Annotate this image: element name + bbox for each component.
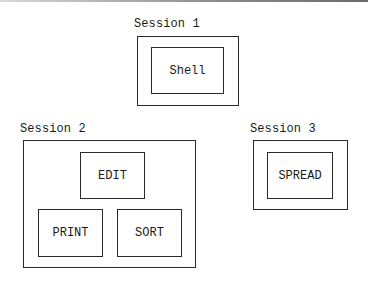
program-label-print: PRINT (52, 226, 88, 240)
program-label-edit: EDIT (98, 169, 127, 183)
session-2-label: Session 2 (20, 122, 86, 136)
session-1-label: Session 1 (134, 17, 200, 31)
program-label-sort: SORT (135, 226, 164, 240)
program-box-edit: EDIT (80, 152, 145, 199)
program-box-spread: SPREAD (267, 152, 333, 199)
top-border-line (0, 0, 368, 2)
program-box-print: PRINT (38, 209, 103, 257)
session-3-label: Session 3 (250, 122, 316, 136)
program-label-spread: SPREAD (278, 169, 321, 183)
program-box-shell: Shell (151, 47, 224, 94)
program-label-shell: Shell (169, 64, 205, 78)
program-box-sort: SORT (117, 209, 182, 257)
